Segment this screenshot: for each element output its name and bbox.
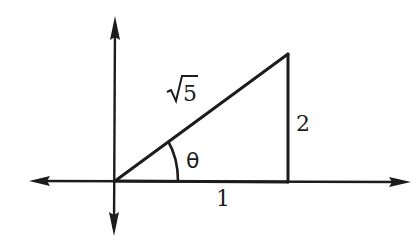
hypotenuse-side bbox=[115, 54, 288, 181]
x-axis-right-arrow-icon bbox=[389, 177, 411, 187]
hypotenuse-label: 5 bbox=[167, 76, 198, 106]
y-axis bbox=[109, 16, 120, 236]
y-axis-up-arrow-icon bbox=[110, 16, 120, 40]
y-axis-down-arrow-icon bbox=[109, 212, 119, 236]
x-axis-left-arrow-icon bbox=[29, 176, 50, 186]
angle-theta-arc bbox=[168, 141, 178, 181]
triangle bbox=[115, 54, 288, 182]
y-axis-line bbox=[114, 24, 115, 228]
angle-theta-label: θ bbox=[186, 148, 199, 173]
opposite-label: 2 bbox=[296, 111, 310, 136]
hypotenuse-radicand: 5 bbox=[183, 81, 197, 106]
adjacent-side bbox=[115, 181, 288, 182]
adjacent-label: 1 bbox=[216, 186, 230, 211]
triangle-diagram: 5 2 1 θ bbox=[0, 0, 420, 250]
